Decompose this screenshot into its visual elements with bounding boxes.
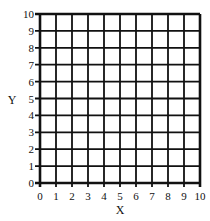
y-tick-label: 6 (29, 76, 35, 88)
grid-lines (35, 14, 200, 187)
x-axis-ticks: 012345678910 (37, 190, 206, 202)
y-tick-label: 5 (29, 93, 35, 105)
x-tick-label: 4 (101, 190, 107, 202)
coordinate-grid-chart: 012345678910 012345678910 X Y (0, 0, 210, 221)
y-tick-label: 10 (23, 8, 35, 20)
x-tick-label: 10 (195, 190, 207, 202)
y-tick-label: 1 (29, 160, 35, 172)
y-axis-ticks: 012345678910 (23, 8, 35, 189)
y-tick-label: 4 (29, 109, 35, 121)
x-tick-label: 5 (117, 190, 123, 202)
x-tick-label: 7 (149, 190, 155, 202)
x-tick-label: 9 (181, 190, 187, 202)
y-tick-label: 7 (29, 59, 35, 71)
x-tick-label: 6 (133, 190, 139, 202)
y-tick-label: 0 (29, 177, 35, 189)
x-axis-title: X (116, 203, 125, 217)
x-tick-label: 0 (37, 190, 43, 202)
y-tick-label: 2 (29, 143, 35, 155)
y-axis-title: Y (8, 93, 17, 107)
x-tick-label: 2 (69, 190, 75, 202)
x-tick-label: 3 (85, 190, 91, 202)
x-tick-label: 8 (165, 190, 171, 202)
y-tick-label: 8 (29, 42, 35, 54)
y-tick-label: 3 (29, 126, 35, 138)
y-tick-label: 9 (29, 25, 35, 37)
x-tick-label: 1 (53, 190, 59, 202)
